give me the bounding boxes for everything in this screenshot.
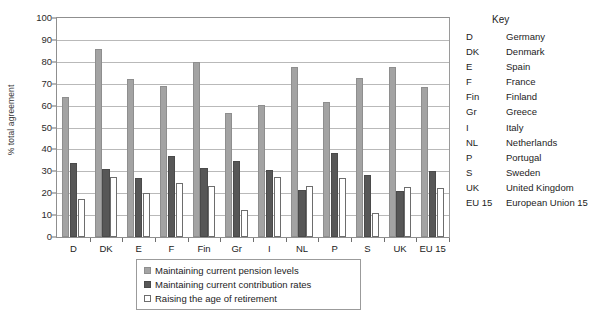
key-panel: Key DGermanyDKDenmarkESpainFFranceFinFin… [466, 14, 606, 212]
key-row: DGermany [466, 31, 606, 46]
x-axis-tick-mark [416, 238, 417, 242]
x-axis-tick-mark [90, 238, 91, 242]
key-row-name: Germany [506, 31, 545, 42]
y-axis-tick-mark [52, 171, 56, 172]
x-axis-tick-mark [122, 238, 123, 242]
key-row: ESpain [466, 61, 606, 76]
bar [95, 49, 102, 237]
bar [291, 67, 298, 237]
y-axis-tick-mark [52, 105, 56, 106]
bar-group [384, 18, 417, 237]
bar-group [253, 18, 286, 237]
legend-swatch-icon [144, 267, 151, 274]
bar [143, 193, 150, 237]
key-row: UKUnited Kingdom [466, 182, 606, 197]
bar [396, 191, 403, 237]
key-row-code: S [466, 167, 506, 178]
bars-layer [57, 18, 449, 237]
y-axis-tick-mark [52, 149, 56, 150]
x-axis-tick-label: S [364, 243, 370, 254]
y-axis-tick-mark [52, 237, 56, 238]
y-axis-tick-labels: 0102030405060708090100 [20, 17, 52, 238]
chart-legend: Maintaining current pension levelsMainta… [136, 259, 361, 310]
bar-group [188, 18, 221, 237]
y-axis-tick-mark [52, 83, 56, 84]
bar [339, 178, 346, 237]
y-axis-tick-label: 70 [20, 77, 52, 88]
bar-group [57, 18, 90, 237]
y-axis-tick-label: 90 [20, 33, 52, 44]
bar [160, 86, 167, 237]
x-axis-tick-label: D [70, 243, 77, 254]
key-row-name: Italy [506, 122, 523, 133]
bar [127, 79, 134, 237]
bar [62, 97, 69, 237]
x-axis-tick-mark [351, 238, 352, 242]
key-row: DKDenmark [466, 46, 606, 61]
x-axis-tick-mark [318, 238, 319, 242]
legend-item: Raising the age of retirement [144, 291, 354, 305]
x-axis-tick-label: E [135, 243, 141, 254]
key-row-code: Fin [466, 91, 506, 102]
y-axis-tick-mark [52, 215, 56, 216]
x-axis-tick-mark [449, 238, 450, 242]
bar [421, 87, 428, 237]
bar [233, 161, 240, 237]
y-axis-tick-label: 60 [20, 99, 52, 110]
key-row-name: Sweden [506, 167, 540, 178]
key-row: IItaly [466, 122, 606, 137]
bar [110, 177, 117, 237]
bar [356, 78, 363, 237]
bar [135, 178, 142, 237]
bar [193, 62, 200, 237]
key-row-code: DK [466, 46, 506, 57]
key-row-name: Portugal [506, 152, 541, 163]
key-row-code: F [466, 76, 506, 87]
key-row-name: United Kingdom [506, 182, 574, 193]
y-axis-title-text: % total agreement [6, 85, 16, 156]
legend-item-label: Raising the age of retirement [155, 293, 277, 304]
y-axis-tick-mark [52, 61, 56, 62]
legend-item-label: Maintaining current pension levels [155, 265, 299, 276]
key-row-name: European Union 15 [506, 197, 588, 208]
key-row-code: NL [466, 137, 506, 148]
bar [323, 102, 330, 237]
bar [437, 188, 444, 237]
y-axis-tick-label: 20 [20, 187, 52, 198]
bar [266, 170, 273, 237]
key-row: FinFinland [466, 91, 606, 106]
key-row: GrGreece [466, 106, 606, 121]
bar [364, 175, 371, 237]
x-axis-tick-label: EU 15 [419, 243, 445, 254]
x-axis-tick-mark [286, 238, 287, 242]
key-row: NLNetherlands [466, 137, 606, 152]
bar [372, 213, 379, 237]
x-axis-tick-label: NL [296, 243, 308, 254]
bar [429, 171, 436, 237]
x-axis-tick-mark [188, 238, 189, 242]
bar [331, 153, 338, 237]
legend-item: Maintaining current pension levels [144, 263, 354, 277]
bar-group [90, 18, 123, 237]
bar-group [122, 18, 155, 237]
y-axis-tick-label: 10 [20, 209, 52, 220]
bar [176, 183, 183, 237]
key-row-name: Denmark [506, 46, 545, 57]
x-axis-tick-label: P [331, 243, 337, 254]
key-row-name: Netherlands [506, 137, 557, 148]
key-row-code: D [466, 31, 506, 42]
y-axis-title: % total agreement [2, 0, 20, 240]
bar [241, 210, 248, 237]
y-axis-tick-label: 40 [20, 143, 52, 154]
x-axis-tick-label: DK [99, 243, 112, 254]
bar [78, 199, 85, 237]
key-row-code: Gr [466, 106, 506, 117]
bar [102, 169, 109, 237]
key-row: FFrance [466, 76, 606, 91]
key-title: Key [492, 14, 606, 25]
x-axis-tick-label: Gr [231, 243, 242, 254]
bar [258, 105, 265, 237]
bar [208, 186, 215, 237]
y-axis-tick-mark [52, 18, 56, 19]
legend-item-label: Maintaining current contribution rates [155, 279, 311, 290]
